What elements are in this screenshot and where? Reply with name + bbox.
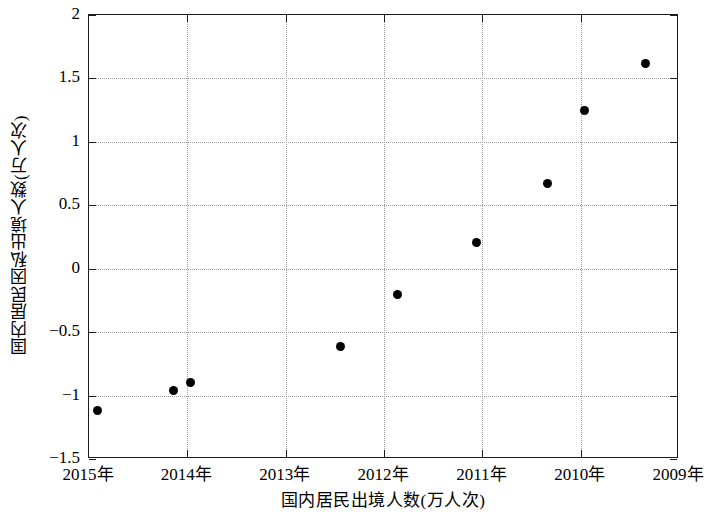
x-tick-mark-top <box>581 15 582 22</box>
x-tick-mark <box>286 450 287 457</box>
x-axis-title: 国内居民出境人数(万人次) <box>88 486 678 511</box>
y-tick-mark <box>89 269 96 270</box>
x-tick-mark <box>187 450 188 457</box>
data-point <box>169 386 178 395</box>
data-point <box>393 290 402 299</box>
y-tick-mark <box>89 142 96 143</box>
y-tick-mark-right <box>670 15 677 16</box>
y-tick-mark-right <box>670 142 677 143</box>
data-point <box>186 378 195 387</box>
gridline-vertical <box>187 15 188 457</box>
y-tick-label: −0.5 <box>24 322 80 339</box>
plot-area <box>88 14 678 458</box>
y-tick-label: 1 <box>24 132 80 149</box>
y-tick-mark-right <box>670 332 677 333</box>
gridline-vertical <box>482 15 483 457</box>
y-tick-label: −1.5 <box>24 449 80 466</box>
x-tick-mark-top <box>384 15 385 22</box>
gridline-vertical <box>581 15 582 457</box>
gridline-vertical <box>286 15 287 457</box>
gridline-horizontal <box>89 78 677 79</box>
x-tick-label: 2013年 <box>240 466 330 483</box>
gridline-horizontal <box>89 205 677 206</box>
x-tick-label: 2014年 <box>141 466 231 483</box>
y-tick-label: 0 <box>24 259 80 276</box>
scatter-chart-figure: 国内居民因私出境人数(万人次) 21.510.50−0.5−1−1.5 2015… <box>0 0 710 518</box>
x-tick-label: 2015年 <box>43 466 133 483</box>
gridline-horizontal <box>89 269 677 270</box>
data-point <box>336 342 345 351</box>
y-tick-mark <box>89 396 96 397</box>
y-tick-label: 0.5 <box>24 195 80 212</box>
x-tick-mark-top <box>187 15 188 22</box>
x-tick-label: 2011年 <box>436 466 526 483</box>
y-tick-label: 2 <box>24 5 80 22</box>
y-tick-mark-right <box>670 459 677 460</box>
y-tick-mark <box>89 332 96 333</box>
gridline-horizontal <box>89 396 677 397</box>
y-tick-label: −1 <box>24 386 80 403</box>
x-tick-label: 2009年 <box>633 466 710 483</box>
data-point <box>93 406 102 415</box>
y-tick-mark-right <box>670 396 677 397</box>
data-point <box>641 59 650 68</box>
x-tick-mark-top <box>286 15 287 22</box>
y-tick-mark-right <box>670 269 677 270</box>
data-point <box>580 106 589 115</box>
y-tick-label: 1.5 <box>24 68 80 85</box>
x-tick-mark <box>482 450 483 457</box>
x-tick-label: 2010年 <box>535 466 625 483</box>
y-tick-mark <box>89 78 96 79</box>
y-tick-mark <box>89 15 96 16</box>
x-tick-mark-top <box>482 15 483 22</box>
y-tick-mark-right <box>670 205 677 206</box>
y-tick-mark <box>89 459 96 460</box>
data-point <box>543 179 552 188</box>
y-tick-mark <box>89 205 96 206</box>
y-tick-mark-right <box>670 78 677 79</box>
x-tick-label: 2012年 <box>338 466 428 483</box>
gridline-horizontal <box>89 142 677 143</box>
gridline-horizontal <box>89 332 677 333</box>
data-point <box>472 238 481 247</box>
x-tick-mark <box>581 450 582 457</box>
gridline-vertical <box>384 15 385 457</box>
x-tick-mark <box>384 450 385 457</box>
